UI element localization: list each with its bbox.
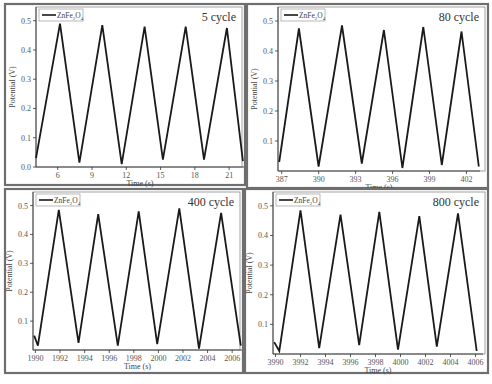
- x-tick-label: 2004: [200, 354, 216, 363]
- x-tick-label: 1992: [52, 354, 68, 363]
- x-tick-label: 393: [350, 175, 362, 184]
- y-tick-label: 0.1: [18, 317, 28, 326]
- y-tick-label: 0.4: [18, 230, 28, 239]
- x-tick-label: 6: [56, 171, 60, 180]
- x-tick-label: 4000: [393, 358, 409, 367]
- y-tick-label: 0.1: [263, 137, 273, 146]
- legend-text-part: ZnFe: [294, 196, 311, 205]
- y-tick-label: 0.2: [258, 291, 268, 300]
- x-tick-label: 2006: [224, 354, 240, 363]
- y-tick-label: 0.2: [263, 107, 273, 116]
- y-tick-label: 0.5: [263, 17, 273, 26]
- chart-panel-4: 0.10.20.30.40.53990399239943996399840004…: [245, 189, 488, 375]
- x-tick-label: 3996: [343, 358, 359, 367]
- y-tick-label: 0.1: [258, 320, 268, 329]
- y-tick-label: 0.5: [18, 202, 28, 211]
- legend-label: ZnFe2O4: [57, 11, 84, 21]
- y-tick-label: 0.4: [258, 231, 268, 240]
- cycle-title: 400 cycle: [188, 195, 234, 209]
- cycle-title: 80 cycle: [439, 10, 479, 24]
- x-axis-label: Time (s): [126, 179, 153, 188]
- x-tick-label: 21: [225, 171, 233, 180]
- y-axis-label: Potential (V): [8, 66, 17, 108]
- y-tick-label: 0.1: [21, 134, 31, 143]
- legend-label: ZnFe2O4: [294, 196, 321, 206]
- panel-frame: [245, 189, 488, 373]
- x-tick-label: 1996: [101, 354, 117, 363]
- legend-text-part: ZnFe: [57, 11, 74, 20]
- y-tick-label: 0.2: [18, 288, 28, 297]
- y-tick-label: 0.4: [21, 46, 31, 55]
- y-axis-label: Potential (V): [245, 252, 254, 294]
- x-tick-label: 4004: [443, 358, 459, 367]
- x-tick-label: 1994: [77, 354, 93, 363]
- x-axis-label: Time (s): [364, 366, 391, 375]
- x-tick-label: 387: [276, 175, 288, 184]
- cycle-title: 5 cycle: [202, 10, 236, 24]
- legend-text-part: ZnFe: [299, 11, 316, 20]
- y-tick-label: 0.5: [258, 202, 268, 211]
- panel-frame: [5, 189, 243, 373]
- x-tick-label: 3992: [293, 358, 309, 367]
- chart-panel-1: 0.00.10.20.30.40.56912151821Time (s)Pote…: [5, 4, 245, 188]
- x-axis-label: Time (s): [124, 362, 151, 371]
- x-tick-label: 402: [460, 175, 472, 184]
- x-tick-label: 399: [424, 175, 436, 184]
- y-tick-label: 0.5: [21, 17, 31, 26]
- cycle-title: 800 cycle: [433, 195, 479, 209]
- x-tick-label: 390: [313, 175, 325, 184]
- y-axis-label: Potential (V): [250, 68, 259, 110]
- y-tick-label: 0.3: [21, 75, 31, 84]
- y-tick-label: 0.2: [21, 104, 31, 113]
- chart-panel-3: 0.10.20.30.40.51990199219941996199820002…: [5, 189, 243, 373]
- y-tick-label: 0.4: [263, 47, 273, 56]
- x-tick-label: 9: [90, 171, 94, 180]
- x-tick-label: 3990: [268, 358, 284, 367]
- legend-label: ZnFe2O4: [299, 11, 326, 21]
- x-tick-label: 4006: [468, 358, 484, 367]
- y-tick-label: 0.3: [258, 261, 268, 270]
- x-tick-label: 2000: [150, 354, 166, 363]
- y-tick-label: 0.0: [21, 163, 31, 172]
- legend-text-part: ZnFe: [54, 196, 71, 205]
- x-tick-label: 3994: [318, 358, 334, 367]
- x-tick-label: 2002: [175, 354, 191, 363]
- y-tick-label: 0.3: [18, 259, 28, 268]
- x-tick-label: 18: [191, 171, 199, 180]
- panel-frame: [5, 4, 245, 185]
- chart-panel-2: 0.10.20.30.40.5387390393396399402Time (s…: [247, 4, 488, 192]
- x-tick-label: 15: [157, 171, 165, 180]
- figure: 0.00.10.20.30.40.56912151821Time (s)Pote…: [0, 0, 492, 384]
- x-tick-label: 4002: [418, 358, 434, 367]
- y-axis-label: Potential (V): [5, 250, 14, 292]
- y-tick-label: 0.3: [263, 77, 273, 86]
- legend-label: ZnFe2O4: [54, 196, 81, 206]
- x-tick-label: 1990: [27, 354, 43, 363]
